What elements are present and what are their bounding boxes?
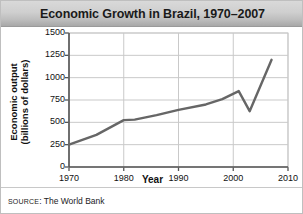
plot-area: Economic output (billions of dollars) 02… [1,26,303,190]
y-axis-tick-label: 500 [29,116,65,126]
x-axis-title: Year [1,174,303,185]
y-axis-tick-label: 750 [29,94,65,104]
y-axis-tick-label: 1500 [29,27,65,37]
data-line [69,60,272,145]
y-axis-tick-label: 250 [29,139,65,149]
page-title: Economic Growth in Brazil, 1970–2007 [40,7,265,21]
chart-title-band: Economic Growth in Brazil, 1970–2007 [1,1,303,27]
y-axis-tick-label: 1000 [29,72,65,82]
source-value: The World Bank [44,196,105,206]
source-label: SOURCE [8,198,39,205]
y-axis-tick-label: 0 [29,161,65,171]
source-bar: SOURCE: The World Bank [1,187,303,213]
y-axis-tick-label: 1250 [29,49,65,59]
chart-figure: Economic Growth in Brazil, 1970–2007 Eco… [0,0,303,214]
source-note: SOURCE: The World Bank [1,196,105,206]
data-line-series [69,60,272,145]
